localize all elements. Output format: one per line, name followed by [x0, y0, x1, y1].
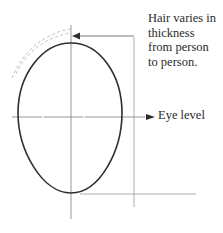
head-outline — [18, 43, 122, 193]
hair-annotation-line-2: thickness — [148, 26, 216, 41]
eye-level-arrow-icon — [146, 114, 155, 120]
hair-annotation-line-4: to person. — [148, 55, 216, 70]
hair-annotation-line-3: from person — [148, 40, 216, 55]
hair-arrow-icon — [72, 33, 80, 40]
eye-level-label: Eye level — [158, 108, 205, 123]
hair-annotation: Hair varies in thickness from person to … — [148, 11, 216, 69]
hair-thickness-arcs — [12, 29, 70, 78]
hair-annotation-line-1: Hair varies in — [148, 11, 216, 26]
